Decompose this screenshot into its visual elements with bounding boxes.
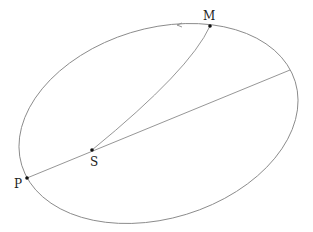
radius-line-ms <box>92 26 210 150</box>
label-m: M <box>203 9 215 23</box>
orbit-diagram: M S P <box>0 0 313 232</box>
label-p: P <box>14 177 22 191</box>
point-m <box>208 24 212 28</box>
point-p <box>25 176 29 180</box>
apse-line <box>27 70 290 178</box>
point-s <box>90 148 94 152</box>
label-s: S <box>90 155 98 169</box>
orbit-ellipse <box>0 0 313 232</box>
